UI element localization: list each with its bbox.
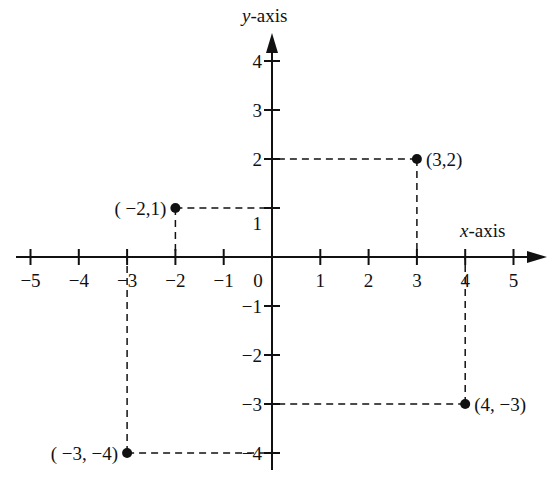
point-label: (4, −3) [474,394,526,416]
data-point [122,448,132,458]
y-tick-label: −2 [242,345,262,366]
y-tick-label: 4 [253,51,263,72]
y-axis-title: y-axis [240,5,287,26]
coordinate-plane-figure: x-axisy-axis−5−4−3−2−1123450−4−3−2−11234… [0,0,552,487]
y-tick-label: −1 [242,296,262,317]
point-label: (3,2) [426,149,462,171]
y-tick-label: −3 [242,394,262,415]
x-tick-label: −1 [214,270,234,291]
y-tick-label: 3 [253,100,263,121]
x-axis-title: x-axis [459,220,505,241]
x-tick-label: 1 [316,270,326,291]
coordinate-plane: x-axisy-axis−5−4−3−2−1123450−4−3−2−11234… [0,0,552,487]
x-axis-arrow-icon [527,251,547,263]
point-label: ( −2,1) [115,198,167,220]
x-tick-label: −5 [20,270,40,291]
y-axis-arrow-icon [266,33,278,53]
x-tick-label: −4 [69,270,90,291]
x-tick-label: −2 [165,270,185,291]
x-tick-label: 3 [412,270,422,291]
y-tick-label: 1 [253,213,263,234]
data-point [460,399,470,409]
x-tick-label: 2 [364,270,374,291]
data-point [412,154,422,164]
data-point [170,203,180,213]
origin-label: 0 [253,270,263,291]
x-tick-label: 5 [509,270,519,291]
point-label: ( −3, −4) [51,443,118,465]
y-tick-label: 2 [253,149,263,170]
